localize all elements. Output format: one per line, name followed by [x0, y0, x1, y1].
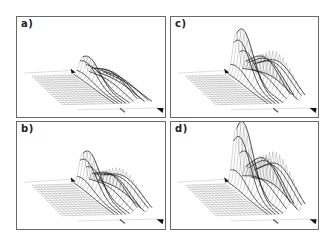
panel-c: c)	[170, 16, 319, 118]
surface-plot-c	[171, 17, 320, 119]
surface-plot-a	[17, 17, 167, 119]
arrow-marker-upper	[224, 68, 229, 73]
arrow-marker-upper	[71, 68, 76, 73]
panel-label-d: d)	[175, 123, 188, 134]
panel-label-b: b)	[21, 123, 34, 134]
panel-label-a: a)	[21, 18, 33, 29]
panel-d: d)	[170, 121, 319, 230]
surface-plot-b	[17, 122, 167, 231]
panel-a: a)	[16, 16, 166, 118]
arrow-marker-lower	[157, 219, 164, 224]
surface-plot-d	[171, 122, 320, 231]
panel-b: b)	[16, 121, 166, 230]
panel-label-c: c)	[175, 18, 187, 29]
arrow-marker-lower	[310, 219, 317, 224]
arrow-marker-lower	[157, 108, 164, 113]
arrow-marker-lower	[310, 108, 317, 113]
